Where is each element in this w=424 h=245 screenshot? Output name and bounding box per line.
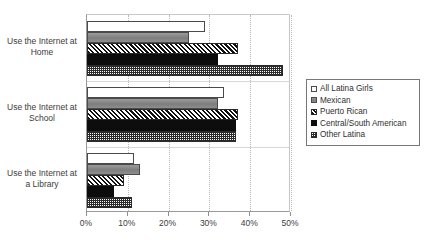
category-label-line: Use the Internet at: [2, 36, 82, 47]
bar-group: [87, 147, 289, 213]
bar: [87, 54, 218, 65]
x-tick: [290, 212, 291, 216]
x-tick: [249, 212, 250, 216]
bar: [87, 21, 205, 32]
category-label-line: Use the Internet at: [2, 168, 82, 179]
bar: [87, 32, 189, 43]
legend-swatch-icon: [311, 132, 317, 138]
legend-swatch-icon: [311, 120, 317, 126]
x-tick: [168, 212, 169, 216]
legend-item: Other Latina: [311, 129, 415, 140]
category-label: Use the Internet atHome: [2, 36, 82, 58]
category-label-line: Use the Internet at: [2, 102, 82, 113]
bar: [87, 186, 114, 197]
x-tick-label: 0%: [69, 218, 103, 228]
bar: [87, 164, 140, 175]
legend-item: Central/South American: [311, 118, 415, 129]
bar: [87, 131, 236, 142]
legend-item: Puerto Rican: [311, 106, 415, 117]
legend-swatch-icon: [311, 86, 317, 92]
x-tick-label: 10%: [110, 218, 144, 228]
x-tick: [127, 212, 128, 216]
x-tick-label: 50%: [273, 218, 307, 228]
x-tick-label: 40%: [232, 218, 266, 228]
bar: [87, 87, 224, 98]
bar-group: [87, 15, 289, 81]
legend-label: Mexican: [320, 96, 351, 105]
legend-swatch-icon: [311, 97, 317, 103]
bar: [87, 98, 218, 109]
legend-item: All Latina Girls: [311, 83, 415, 94]
bar-group: [87, 81, 289, 147]
gridline-50%: [291, 15, 293, 211]
bar: [87, 43, 238, 54]
category-label: Use the Internet ata Library: [2, 168, 82, 190]
category-label-line: School: [2, 113, 82, 124]
bar: [87, 197, 132, 208]
bar: [87, 153, 134, 164]
x-tick: [86, 212, 87, 216]
category-label-line: a Library: [2, 179, 82, 190]
bar: [87, 175, 124, 186]
x-tick-label: 30%: [191, 218, 225, 228]
legend-label: Other Latina: [320, 130, 365, 139]
legend-label: Puerto Rican: [320, 107, 367, 116]
bar: [87, 120, 236, 131]
category-label-line: Home: [2, 47, 82, 58]
legend: All Latina GirlsMexicanPuerto RicanCentr…: [306, 79, 420, 146]
x-tick-label: 20%: [151, 218, 185, 228]
bar-chart: Use the Internet atHomeUse the Internet …: [0, 0, 424, 245]
category-label: Use the Internet atSchool: [2, 102, 82, 124]
x-tick: [208, 212, 209, 216]
legend-label: All Latina Girls: [320, 84, 373, 93]
legend-swatch-icon: [311, 109, 317, 115]
bar: [87, 65, 283, 76]
bar: [87, 109, 238, 120]
legend-label: Central/South American: [320, 119, 406, 128]
plot-area: [86, 14, 290, 212]
legend-item: Mexican: [311, 95, 415, 106]
